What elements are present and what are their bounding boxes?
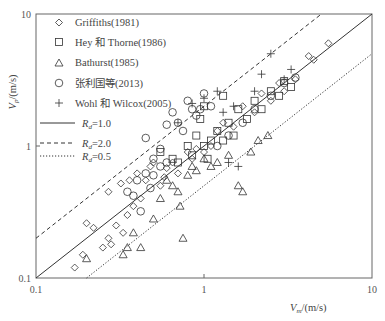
circle-marker xyxy=(292,74,300,82)
square-marker xyxy=(258,106,265,113)
triangle-marker xyxy=(234,182,242,189)
plus-marker xyxy=(287,65,295,73)
circle-marker xyxy=(130,192,138,200)
diamond-marker xyxy=(124,212,131,219)
svg-text:Rd=1.0: Rd=1.0 xyxy=(81,118,111,131)
x-tick-0.1: 0.1 xyxy=(30,284,43,295)
triangle-marker xyxy=(225,151,233,158)
diamond-icon xyxy=(56,19,63,26)
circle-marker xyxy=(169,109,177,117)
plus-marker xyxy=(258,70,266,78)
plus-marker xyxy=(230,102,238,110)
circle-marker xyxy=(225,132,233,140)
plus-marker xyxy=(234,162,242,170)
x-axis-label: Vm/(m/s) xyxy=(290,302,327,315)
diamond-marker xyxy=(113,222,120,229)
svg-text:Hey 和 Thorne(1986): Hey 和 Thorne(1986) xyxy=(75,37,167,49)
diamond-marker xyxy=(258,90,265,97)
square-icon xyxy=(56,39,63,46)
plus-marker xyxy=(225,158,233,166)
svg-text:张利国等(2013): 张利国等(2013) xyxy=(75,77,143,90)
diamond-marker xyxy=(147,163,154,170)
svg-text:Bathurst(1985): Bathurst(1985) xyxy=(75,57,139,69)
plus-icon xyxy=(55,99,63,107)
diamond-marker xyxy=(71,264,78,271)
diamond-marker xyxy=(83,220,90,227)
y-axis-label: Vp/(m/s) xyxy=(7,74,20,110)
triangle-marker xyxy=(264,132,272,139)
circle-marker xyxy=(150,171,158,179)
legend-item-griffiths: Griffiths(1981) xyxy=(56,17,140,29)
triangle-marker xyxy=(184,171,192,178)
scatter-chart: 10 1 0.1 0.1 1 10 Vm/(m/s) Vp/(m/s) Grif… xyxy=(0,0,385,321)
diamond-marker xyxy=(193,145,200,152)
circle-marker xyxy=(142,170,150,178)
triangle-marker xyxy=(254,137,262,144)
triangle-marker xyxy=(123,244,131,251)
circle-marker xyxy=(163,121,171,129)
y-tick-0.1: 0.1 xyxy=(19,273,32,284)
diamond-marker xyxy=(126,177,133,184)
svg-text:Wohl 和 Wilcox(2005): Wohl 和 Wilcox(2005) xyxy=(75,98,172,110)
legend-item-bathurst: Bathurst(1985) xyxy=(55,57,139,69)
square-marker xyxy=(235,106,242,113)
diamond-marker xyxy=(142,177,149,184)
triangle-marker xyxy=(83,255,91,262)
triangle-marker xyxy=(192,167,200,174)
x-tick-1: 1 xyxy=(202,284,207,295)
plus-marker xyxy=(251,87,259,95)
x-tick-10: 10 xyxy=(367,284,377,295)
circle-icon xyxy=(55,79,63,87)
square-marker xyxy=(251,97,258,104)
diamond-marker xyxy=(220,119,227,126)
triangle-marker xyxy=(176,202,184,209)
triangle-marker xyxy=(169,182,177,189)
square-marker xyxy=(276,92,283,99)
triangle-icon xyxy=(55,59,63,66)
circle-marker xyxy=(179,127,187,135)
plus-marker xyxy=(219,108,227,116)
circle-marker xyxy=(157,145,165,153)
diamond-marker xyxy=(120,229,127,236)
svg-text:Rd=2.0: Rd=2.0 xyxy=(81,138,111,151)
diamond-marker xyxy=(105,188,112,195)
circle-marker xyxy=(142,134,150,142)
triangle-marker xyxy=(156,195,164,202)
diamond-marker xyxy=(174,170,181,177)
diamond-marker xyxy=(281,88,288,95)
legend-line-rd-0.5: Rd=0.5 xyxy=(40,151,111,164)
y-tick-1: 1 xyxy=(26,141,31,152)
triangle-marker xyxy=(149,215,157,222)
legend-item-wohl-wilcox: Wohl 和 Wilcox(2005) xyxy=(55,98,172,110)
triangle-marker xyxy=(137,244,145,251)
legend-item-hey-thorne: Hey 和 Thorne(1986) xyxy=(56,37,167,49)
circle-marker xyxy=(207,102,215,110)
circle-marker xyxy=(137,208,145,216)
diamond-marker xyxy=(239,103,246,110)
square-marker xyxy=(288,83,295,90)
diamond-marker xyxy=(134,170,141,177)
legend-item-zhang: 张利国等(2013) xyxy=(55,77,143,90)
diamond-marker xyxy=(99,244,106,251)
triangle-marker xyxy=(179,234,187,241)
triangle-marker xyxy=(213,158,221,165)
svg-text:Griffiths(1981): Griffiths(1981) xyxy=(75,17,139,29)
triangle-marker xyxy=(129,229,137,236)
y-tick-10: 10 xyxy=(21,9,31,20)
legend-line-rd-2: Rd=2.0 xyxy=(40,138,111,151)
legend: Griffiths(1981) Hey 和 Thorne(1986) Bathu… xyxy=(40,17,172,164)
triangle-marker xyxy=(207,162,215,169)
diamond-marker xyxy=(292,76,299,83)
square-marker xyxy=(193,132,200,139)
diamond-marker xyxy=(117,180,124,187)
legend-line-rd-1: Rd=1.0 xyxy=(40,118,111,131)
circle-marker xyxy=(133,176,141,184)
svg-text:Rd=0.5: Rd=0.5 xyxy=(81,151,111,164)
